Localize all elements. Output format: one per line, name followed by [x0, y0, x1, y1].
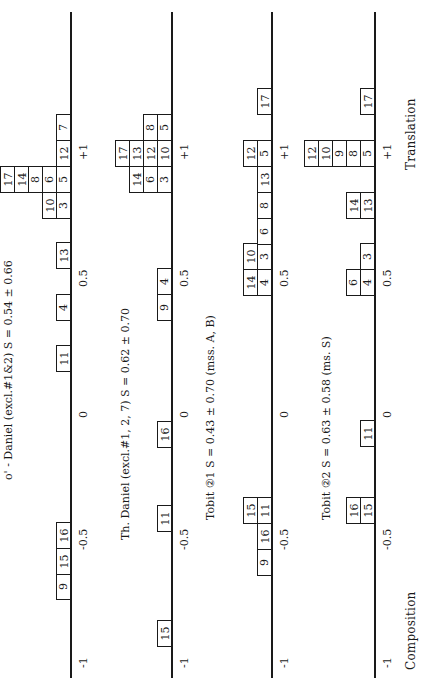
value-box: 12 [56, 140, 71, 167]
value-box: 4 [257, 269, 272, 296]
value-box: 17 [115, 140, 130, 167]
value-box: 14 [14, 166, 29, 193]
box-label: 10 [44, 199, 55, 213]
axis-tick-label: 0 [78, 411, 89, 418]
axis-tick-label: -0.5 [279, 529, 290, 550]
box-label: 11 [58, 352, 69, 366]
box-label: 15 [245, 504, 256, 518]
box-label: 15 [362, 504, 373, 518]
value-box: 10 [318, 140, 333, 167]
value-box: 4 [157, 268, 172, 295]
axis-tick-label: -1 [279, 657, 290, 668]
axis-tick-label: +1 [179, 144, 190, 160]
box-label: 12 [58, 147, 69, 161]
box-label: 16 [159, 428, 170, 442]
value-box: 17 [360, 88, 375, 115]
value-box: 15 [157, 620, 172, 647]
value-box: 14 [129, 166, 144, 193]
axis-tick-label: 0.5 [382, 270, 393, 288]
value-box: 17 [0, 166, 15, 193]
axis-tick-label: 0.5 [279, 270, 290, 288]
value-box: 10 [157, 140, 172, 167]
value-box: 12 [143, 140, 158, 167]
box-label: 17 [259, 95, 270, 109]
value-box: 13 [129, 140, 144, 167]
box-label: 4 [58, 304, 69, 311]
box-label: 5 [58, 176, 69, 183]
box-label: 9 [159, 304, 170, 311]
value-box: 12 [304, 140, 319, 167]
panel-title: Tobit ②2 S = 0.63 ± 0.58 (ms. S) [321, 336, 332, 520]
value-box: 5 [157, 114, 172, 141]
axis-tick-label: -1 [382, 657, 393, 668]
value-box: 5 [257, 140, 272, 167]
panel-title: Tobit ②1 S = 0.43 ± 0.70 (mss. A, B) [205, 315, 216, 520]
box-label: 6 [44, 176, 55, 183]
value-box: 8 [143, 114, 158, 141]
box-label: 17 [2, 173, 13, 187]
value-box: 5 [56, 166, 71, 193]
value-box: 13 [56, 242, 71, 269]
value-box: 15 [360, 497, 375, 524]
box-label: 16 [348, 504, 359, 518]
box-label: 5 [362, 150, 373, 157]
value-box: 6 [143, 166, 158, 193]
axis-tick-label: -0.5 [382, 529, 393, 550]
translation-label: Translation [405, 98, 417, 170]
value-box: 3 [56, 192, 71, 219]
value-box: 9 [56, 573, 71, 600]
value-box: 10 [243, 243, 258, 270]
box-label: 9 [259, 559, 270, 566]
value-box: 8 [28, 166, 43, 193]
value-box: 3 [360, 243, 375, 270]
value-box: 11 [257, 497, 272, 524]
value-box: 3 [257, 243, 272, 270]
box-label: 11 [362, 427, 373, 441]
box-label: 12 [306, 147, 317, 161]
value-box: 15 [243, 497, 258, 524]
value-box: 16 [56, 522, 71, 549]
axis-tick-label: -1 [179, 657, 190, 668]
value-box: 13 [360, 192, 375, 219]
axis-tick-label: -0.5 [78, 529, 89, 550]
box-label: 8 [259, 202, 270, 209]
panel-title: Th. Daniel (excl.#1, 2, 7) S = 0.62 ± 0.… [120, 308, 131, 540]
value-box: 4 [56, 294, 71, 321]
box-label: 12 [145, 147, 156, 161]
value-box: 15 [56, 548, 71, 575]
axis-tick-label: 0.5 [179, 270, 190, 288]
box-label: 10 [245, 250, 256, 264]
value-box: 16 [157, 421, 172, 448]
box-label: 15 [159, 627, 170, 641]
box-label: 8 [348, 150, 359, 157]
value-box: 13 [257, 166, 272, 193]
box-label: 9 [58, 583, 69, 590]
box-label: 15 [58, 555, 69, 569]
value-box: 12 [243, 140, 258, 167]
value-box: 6 [346, 269, 361, 296]
box-label: 17 [362, 95, 373, 109]
value-box: 10 [42, 192, 57, 219]
box-label: 13 [259, 173, 270, 187]
box-label: 4 [259, 279, 270, 286]
axis-tick-label: 0 [382, 411, 393, 418]
axis-tick-label: +1 [78, 144, 89, 160]
panel-title: ο' - Daniel (excl.#1&2) S = 0.54 ± 0.66 [3, 260, 14, 480]
box-label: 9 [334, 150, 345, 157]
value-box: 9 [257, 549, 272, 576]
box-label: 4 [362, 279, 373, 286]
box-label: 14 [16, 173, 27, 187]
box-label: 6 [145, 176, 156, 183]
value-box: 11 [157, 505, 172, 532]
value-box: 9 [157, 294, 172, 321]
box-label: 13 [131, 147, 142, 161]
value-box: 17 [257, 88, 272, 115]
axis-line [171, 12, 173, 678]
value-box: 14 [346, 192, 361, 219]
box-label: 7 [58, 124, 69, 131]
box-label: 13 [362, 199, 373, 213]
box-label: 3 [159, 176, 170, 183]
box-label: 10 [159, 147, 170, 161]
box-label: 5 [259, 150, 270, 157]
box-label: 12 [245, 147, 256, 161]
